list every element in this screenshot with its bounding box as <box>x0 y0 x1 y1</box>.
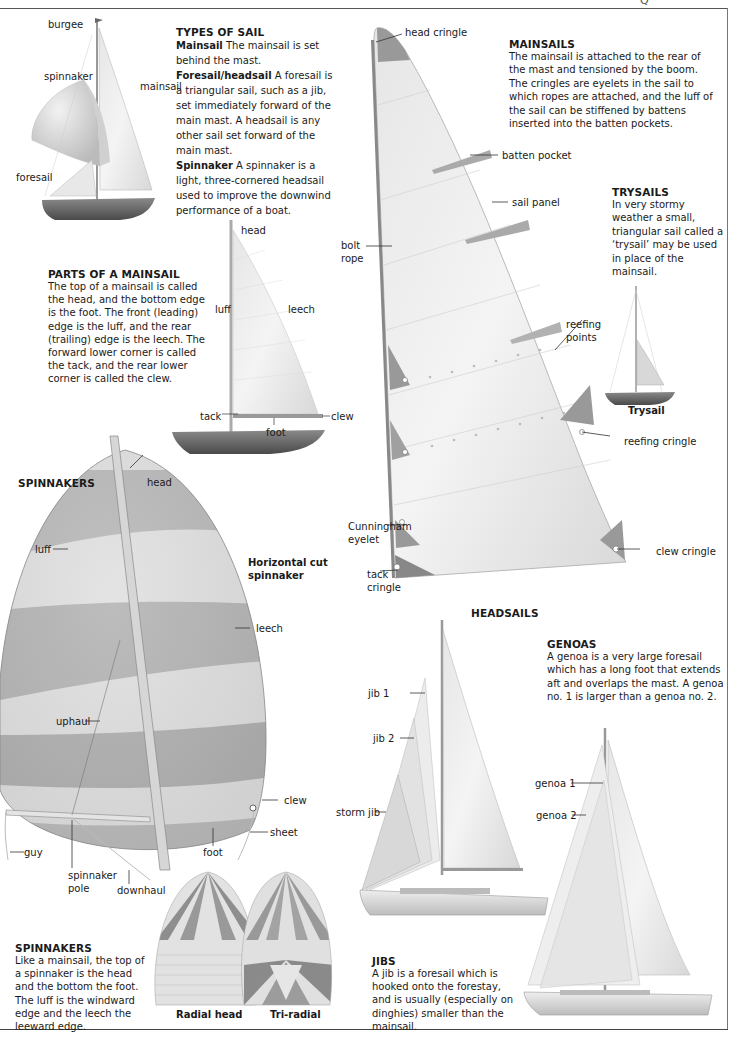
label-reefing-points-line1: reefing <box>566 319 601 330</box>
label-spinnaker: spinnaker <box>44 70 93 83</box>
spinnakers-text-title: SPINNAKERS <box>15 942 145 954</box>
label-foresail: foresail <box>16 171 53 184</box>
label-cunningham-line2: eyelet <box>348 534 379 545</box>
parts-of-mainsail-section: PARTS OF A MAINSAIL The top of a mainsai… <box>48 268 208 386</box>
label-batten-pocket: batten pocket <box>502 149 571 162</box>
label-head: head <box>241 224 266 237</box>
label-tack-cringle-line1: tack <box>367 569 388 580</box>
spin-label-downhaul: downhaul <box>117 884 166 897</box>
spin-label-leech: leech <box>256 622 283 635</box>
term-foresail: Foresail/headsail <box>176 70 272 81</box>
spin-label-uphaul: uphaul <box>56 715 90 728</box>
types-of-sail-title: TYPES OF SAIL <box>176 26 336 38</box>
label-reefing-points: reefing points <box>566 318 601 344</box>
label-reefing-points-line2: points <box>566 332 597 343</box>
horizontal-cut-caption-line2: spinnaker <box>248 570 304 581</box>
label-sail-panel: sail panel <box>512 196 560 209</box>
spin-label-pole-line2: pole <box>68 883 89 894</box>
trysails-section: TRYSAILS In very stormy weather a small,… <box>612 186 727 278</box>
label-cunningham-line1: Cunningham <box>348 521 412 532</box>
trysail-caption: Trysail <box>628 405 665 416</box>
parts-of-mainsail-body: The top of a mainsail is called the head… <box>48 280 208 386</box>
mainsails-title: MAINSAILS <box>509 38 719 50</box>
spin-label-sheet: sheet <box>270 826 298 839</box>
genoas-body: A genoa is a very large foresail which h… <box>547 650 727 704</box>
spin-label-foot: foot <box>203 846 223 859</box>
tri-radial-caption: Tri-radial <box>270 1009 321 1020</box>
spin-label-clew: clew <box>284 794 307 807</box>
label-genoa-1: genoa 1 <box>535 777 576 790</box>
label-bolt-rope-line1: bolt <box>341 240 360 251</box>
term-spinnaker: Spinnaker <box>176 160 233 171</box>
headsails-title: HEADSAILS <box>471 607 539 619</box>
horizontal-cut-caption: Horizontal cut spinnaker <box>248 556 328 582</box>
label-storm-jib: storm jib <box>336 806 380 819</box>
label-genoa-2: genoa 2 <box>536 809 577 822</box>
types-of-sail-body: Mainsail The mainsail is set behind the … <box>176 38 336 218</box>
spin-label-luff: luff <box>35 543 51 556</box>
mainsails-section: MAINSAILS The mainsail is attached to th… <box>509 38 719 130</box>
term-mainsail: Mainsail <box>176 40 223 51</box>
horizontal-cut-spinnaker <box>0 436 280 884</box>
jibs-title: JIBS <box>372 955 522 967</box>
spinnakers-text-body: Like a mainsail, the top of a spinnaker … <box>15 954 145 1033</box>
label-tack-cringle-line2: cringle <box>367 582 401 593</box>
spinnakers-text-section: SPINNAKERS Like a mainsail, the top of a… <box>15 942 145 1033</box>
genoas-section: GENOAS A genoa is a very large foresail … <box>547 638 727 704</box>
trysails-title: TRYSAILS <box>612 186 727 198</box>
jibs-body: A jib is a foresail which is hooked onto… <box>372 967 522 1033</box>
jibs-boat <box>360 620 548 915</box>
genoas-boat <box>524 728 712 1015</box>
label-cunningham-eyelet: Cunningham eyelet <box>348 520 412 546</box>
label-burgee: burgee <box>48 18 83 31</box>
types-of-sail-boat <box>32 18 155 220</box>
radial-head-caption: Radial head <box>176 1009 243 1020</box>
label-jib-1: jib 1 <box>368 687 389 700</box>
label-bolt-rope-line2: rope <box>341 253 364 264</box>
label-jib-2: jib 2 <box>373 732 394 745</box>
label-bolt-rope: bolt rope <box>341 239 364 265</box>
jibs-section: JIBS A jib is a foresail which is hooked… <box>372 955 522 1033</box>
label-reefing-cringle: reefing cringle <box>624 435 696 448</box>
spin-label-head: head <box>147 476 172 489</box>
spin-label-pole-line1: spinnaker <box>68 870 117 881</box>
label-leech: leech <box>288 303 315 316</box>
spinnakers-diagram-title: SPINNAKERS <box>18 477 95 489</box>
trysails-body: In very stormy weather a small, triangul… <box>612 198 727 278</box>
spin-label-guy: guy <box>24 846 43 859</box>
types-of-sail-section: TYPES OF SAIL Mainsail The mainsail is s… <box>176 26 336 218</box>
label-clew: clew <box>331 410 354 423</box>
parts-of-mainsail-title: PARTS OF A MAINSAIL <box>48 268 208 280</box>
mainsails-body: The mainsail is attached to the rear of … <box>509 50 719 130</box>
label-head-cringle: head cringle <box>405 26 467 39</box>
label-clew-cringle: clew cringle <box>656 545 716 558</box>
label-tack-cringle: tack cringle <box>367 568 401 594</box>
label-tack: tack <box>200 410 221 423</box>
tri-radial-spinnaker <box>240 870 340 1010</box>
genoas-title: GENOAS <box>547 638 727 650</box>
label-luff: luff <box>215 303 231 316</box>
spin-label-spinnaker-pole: spinnaker pole <box>68 869 117 895</box>
horizontal-cut-caption-line1: Horizontal cut <box>248 557 328 568</box>
def-foresail: A foresail is a triangular sail, such as… <box>176 70 333 156</box>
label-foot: foot <box>266 426 286 439</box>
trysail-boat <box>605 286 675 405</box>
